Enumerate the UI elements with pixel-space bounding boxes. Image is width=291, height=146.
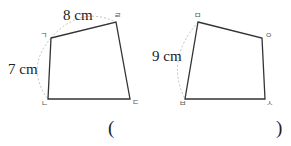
measurement-8cm: 8 cm [63,7,93,23]
diagram-canvas: 8 cm 7 cm ㄱ ㄹ ㄷ ㄴ 9 cm ㅁ ㅇ ㅅ ㅂ ( ) [0,0,291,146]
answer-open-paren: ( [108,117,114,139]
measurement-9cm: 9 cm [152,48,182,64]
vertex-label-nieun: ㄴ [41,99,48,108]
left-quadrilateral: 8 cm 7 cm ㄱ ㄹ ㄷ ㄴ [8,7,139,108]
vertex-label-rieul: ㄹ [114,11,121,20]
vertex-label-siot: ㅅ [266,99,273,108]
right-quadrilateral: 9 cm ㅁ ㅇ ㅅ ㅂ [152,11,273,108]
vertex-label-mieum: ㅁ [194,11,201,20]
vertex-label-digeut: ㄷ [132,98,139,107]
answer-close-paren: ) [276,117,282,139]
measurement-7cm: 7 cm [8,61,38,77]
vertex-label-bieup: ㅂ [179,99,186,108]
quadrilateral-left [48,22,130,99]
quadrilateral-right [185,22,265,99]
vertex-label-giyeok: ㄱ [40,31,47,40]
vertex-label-ieung: ㅇ [265,31,272,40]
answer-blank[interactable]: ( ) [108,117,282,139]
